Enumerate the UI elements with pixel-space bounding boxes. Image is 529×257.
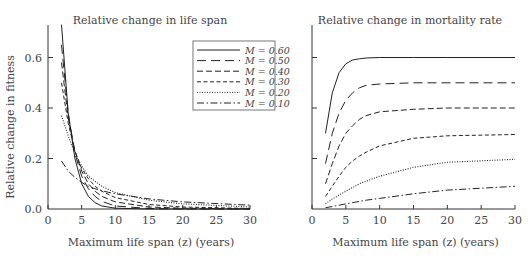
left-chart: M = 0.60M = 0.50M = 0.40M = 0.30M = 0.20… <box>48 25 290 209</box>
x-tick-label: 20 <box>440 214 454 227</box>
x-tick-label: 20 <box>176 214 190 227</box>
y-tick-label: 0.0 <box>25 203 43 216</box>
legend: M = 0.60M = 0.50M = 0.40M = 0.30M = 0.20… <box>193 41 290 110</box>
x-tick-label: 5 <box>78 214 85 227</box>
x-tick-label: 25 <box>474 214 488 227</box>
legend-label: M = 0.50 <box>244 55 290 66</box>
y-tick-label: 0.2 <box>25 153 43 166</box>
chart-title: Relative change in mortality rate <box>318 14 502 27</box>
x-axis-label: Maximum life span (z) (years) <box>332 236 499 249</box>
x-tick-label: 5 <box>342 214 349 227</box>
x-tick-label: 15 <box>142 214 156 227</box>
x-tick-label: 10 <box>373 214 387 227</box>
x-tick-label: 30 <box>508 214 522 227</box>
series-line-010 <box>62 161 251 205</box>
series-line-050 <box>326 83 516 164</box>
x-tick-label: 15 <box>407 214 421 227</box>
series-line-010 <box>326 186 516 207</box>
series-line-060 <box>326 58 516 134</box>
legend-label: M = 0.10 <box>244 98 290 109</box>
series-line-020 <box>326 159 516 204</box>
x-tick-label: 30 <box>243 214 257 227</box>
y-tick-label: 0.6 <box>25 52 43 65</box>
x-tick-label: 0 <box>45 214 52 227</box>
y-axis-label: Relative change in fitness <box>4 55 17 199</box>
legend-label: M = 0.20 <box>244 87 290 98</box>
legend-label: M = 0.30 <box>244 76 290 87</box>
y-tick-label: 0.4 <box>25 102 43 115</box>
legend-label: M = 0.40 <box>244 66 290 77</box>
right-chart <box>312 25 515 209</box>
x-tick-label: 0 <box>309 214 316 227</box>
series-line-040 <box>326 108 516 184</box>
x-tick-label: 25 <box>209 214 223 227</box>
series-line-020 <box>62 116 251 207</box>
x-axis-label: Maximum life span (z) (years) <box>68 236 235 249</box>
x-tick-label: 10 <box>108 214 122 227</box>
chart-title: Relative change in life span <box>73 14 228 27</box>
chart-figure: M = 0.60M = 0.50M = 0.40M = 0.30M = 0.20… <box>0 0 529 257</box>
legend-label: M = 0.60 <box>244 45 290 56</box>
